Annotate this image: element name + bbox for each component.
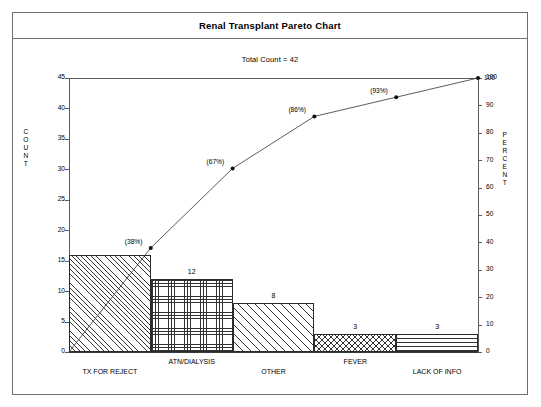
right-axis-tick-label: 80: [486, 129, 493, 136]
left-axis-tick-label: 35: [58, 135, 65, 142]
cumulative-percent-label: (86%): [288, 106, 306, 113]
percent-title-letter: E: [500, 163, 510, 171]
left-axis-tick-label: 25: [58, 196, 65, 203]
cumulative-point-marker: [312, 114, 316, 118]
right-axis-tick: [478, 160, 482, 161]
percent-title-letter: P: [500, 131, 510, 139]
right-axis-tick: [478, 188, 482, 189]
right-axis-tick-label: 90: [486, 102, 493, 109]
page-title: Renal Transplant Pareto Chart: [199, 20, 341, 31]
left-axis-tick-label: 20: [58, 227, 65, 234]
pareto-chart-screenshot: Renal Transplant Pareto Chart Total Coun…: [0, 0, 541, 407]
bottom-axis-line: [69, 352, 478, 353]
left-axis-tick-label: 10: [58, 288, 65, 295]
right-axis-tick: [478, 133, 482, 134]
x-axis-label-fever: FEVER: [314, 358, 396, 365]
right-axis-tick-label: 10: [486, 321, 493, 328]
right-axis-tick-label: 70: [486, 157, 493, 164]
left-axis-tick-label: 15: [58, 257, 65, 264]
plot-area: 051015202530354045 010203040506070809010…: [69, 78, 478, 352]
right-axis-tick: [478, 242, 482, 243]
x-axis-label-tx-for-reject: TX FOR REJECT: [69, 368, 151, 375]
cumulative-point-marker: [149, 246, 153, 250]
chart-subtitle: Total Count = 42: [13, 55, 527, 64]
cumulative-percent-label: (38%): [125, 238, 143, 245]
cumulative-line-path: [69, 78, 478, 352]
right-axis-tick-label: 20: [486, 294, 493, 301]
right-axis-tick: [478, 325, 482, 326]
count-title-letter: O: [21, 136, 31, 144]
percent-title-letter: R: [500, 147, 510, 155]
x-axis-label-other: OTHER: [233, 368, 315, 375]
cumulative-percent-label: 100: [484, 74, 495, 81]
cumulative-percent-label: (93%): [370, 87, 388, 94]
right-axis-tick-label: 30: [486, 266, 493, 273]
right-axis-tick-label: 40: [486, 239, 493, 246]
right-axis-tick: [478, 270, 482, 271]
left-axis-tick-label: 0: [61, 348, 65, 355]
percent-title-letter: N: [500, 171, 510, 179]
left-axis-tick-label: 30: [58, 166, 65, 173]
count-title-letter: C: [21, 128, 31, 136]
count-title-letter: U: [21, 144, 31, 152]
cumulative-point-marker: [394, 95, 398, 99]
chart-frame: Renal Transplant Pareto Chart Total Coun…: [12, 12, 528, 395]
left-axis-tick-label: 40: [58, 105, 65, 112]
left-axis-tick-label: 45: [58, 74, 65, 81]
left-axis-tick-label: 5: [61, 318, 65, 325]
count-title-letter: N: [21, 152, 31, 160]
count-title-letter: T: [21, 160, 31, 168]
x-axis-label-atn-dialysis: ATN/DIALYSIS: [151, 358, 233, 365]
right-axis-tick-label: 50: [486, 211, 493, 218]
cumulative-percent-line: [69, 78, 478, 352]
percent-title-letter: C: [500, 155, 510, 163]
right-axis-tick: [478, 297, 482, 298]
cumulative-point-marker: [476, 76, 480, 80]
right-axis-tick-label: 0: [486, 348, 490, 355]
left-axis-tick: [65, 352, 69, 353]
right-axis-tick: [478, 105, 482, 106]
right-axis-tick: [478, 215, 482, 216]
x-axis-label-lack-of-info: LACK OF INFO: [396, 368, 478, 375]
y-axis-title-count: COUNT: [21, 128, 31, 168]
percent-title-letter: E: [500, 139, 510, 147]
right-axis-tick-label: 60: [486, 184, 493, 191]
percent-title-letter: T: [500, 179, 510, 187]
y2-axis-title-percent: PERCENT: [500, 131, 510, 187]
cumulative-percent-label: (67%): [207, 158, 225, 165]
right-axis-tick: [478, 352, 482, 353]
cumulative-point-marker: [231, 166, 235, 170]
chart-title-bar: Renal Transplant Pareto Chart: [13, 13, 527, 39]
